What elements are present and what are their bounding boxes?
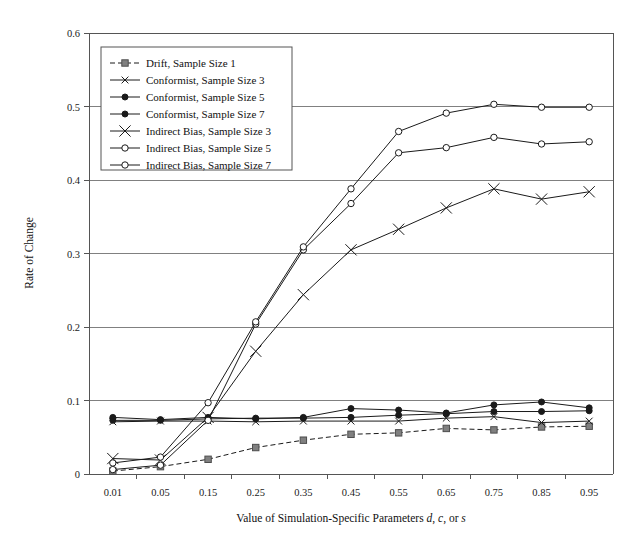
legend-label: Conformist, Sample Size 3 [146, 74, 265, 86]
data-point-marker [491, 134, 497, 140]
data-point-marker [157, 417, 163, 423]
data-point-marker [586, 405, 592, 411]
data-point-marker [491, 402, 497, 408]
data-point-marker [491, 409, 497, 415]
legend-label: Conformist, Sample Size 7 [146, 108, 265, 120]
x-tick-label: 0.45 [342, 487, 360, 498]
data-point-marker [157, 454, 163, 460]
data-point-marker [586, 104, 592, 110]
y-tick-label: 0.5 [67, 102, 80, 113]
data-point-marker [395, 128, 401, 134]
x-tick-label: 0.25 [247, 487, 265, 498]
x-axis-ticks [137, 474, 566, 479]
data-point-marker [253, 416, 259, 422]
data-point-marker [110, 414, 116, 420]
data-point-marker [205, 456, 211, 462]
x-axis-title-sep2: , or [443, 512, 461, 525]
data-point-marker [538, 104, 544, 110]
data-point-marker [300, 244, 306, 250]
data-point-marker [205, 400, 211, 406]
y-tick-label: 0 [75, 469, 80, 480]
data-point-marker [395, 430, 401, 436]
data-point-marker [110, 460, 116, 466]
y-tick-label: 0.6 [67, 28, 80, 39]
x-tick-label: 0.75 [485, 487, 503, 498]
data-point-marker [348, 414, 354, 420]
data-point-marker [205, 417, 211, 423]
y-axis-title: Rate of Change [23, 217, 36, 289]
legend-swatch-marker [122, 162, 128, 168]
x-tick-label: 0.55 [389, 487, 407, 498]
chart-figure: 00.10.20.30.40.50.6 0.010.050.150.250.35… [0, 0, 640, 546]
line-chart: 00.10.20.30.40.50.6 0.010.050.150.250.35… [0, 0, 640, 546]
data-point-marker [586, 139, 592, 145]
x-tick-label: 0.01 [104, 487, 122, 498]
x-tick-label: 0.05 [151, 487, 169, 498]
y-tick-label: 0.4 [67, 175, 81, 186]
data-point-marker [491, 101, 497, 107]
data-point-marker [538, 141, 544, 147]
data-point-marker [348, 200, 354, 206]
data-point-marker [539, 409, 545, 415]
data-point-marker [348, 431, 354, 437]
x-tick-label: 0.85 [532, 487, 550, 498]
data-point-marker [157, 462, 163, 468]
y-tick-label: 0.1 [67, 396, 80, 407]
data-point-marker [443, 144, 449, 150]
data-point-marker [443, 110, 449, 116]
data-point-marker [348, 406, 354, 412]
legend-swatch-marker [122, 94, 128, 100]
data-point-marker [300, 414, 306, 420]
data-point-marker [443, 410, 449, 416]
legend-swatch-marker [122, 145, 128, 151]
data-point-marker [396, 407, 402, 413]
data-point-marker [348, 186, 354, 192]
data-point-marker [491, 427, 497, 433]
x-axis-title-lead: Value of Simulation-Specific Parameters [236, 512, 426, 525]
x-tick-label: 0.65 [437, 487, 455, 498]
x-tick-label: 0.95 [580, 487, 598, 498]
legend-label: Drift, Sample Size 1 [146, 57, 236, 69]
data-point-marker [253, 319, 259, 325]
x-tick-label: 0.35 [294, 487, 312, 498]
data-point-marker [300, 437, 306, 443]
legend-label: Indirect Bias, Sample Size 3 [146, 125, 271, 137]
legend-swatch-marker [122, 60, 128, 66]
y-tick-label: 0.3 [67, 249, 80, 260]
data-point-marker [539, 399, 545, 405]
x-axis-title: Value of Simulation-Specific Parameters … [236, 512, 466, 525]
legend-label: Conformist, Sample Size 5 [146, 91, 265, 103]
x-tick-label: 0.15 [199, 487, 217, 498]
legend-label: Indirect Bias, Sample Size 7 [146, 159, 271, 171]
data-point-marker [443, 425, 449, 431]
y-axis-tick-labels: 00.10.20.30.40.50.6 [67, 28, 81, 480]
x-axis-title-param-s: s [461, 512, 466, 524]
data-point-marker [110, 466, 116, 472]
legend-swatch-marker [122, 111, 128, 117]
y-tick-label: 0.2 [67, 322, 80, 333]
legend-label: Indirect Bias, Sample Size 5 [146, 142, 271, 154]
data-point-marker [253, 444, 259, 450]
data-point-marker [395, 150, 401, 156]
chart-legend: Drift, Sample Size 1Conformist, Sample S… [101, 47, 292, 171]
x-axis-tick-labels: 0.010.050.150.250.350.450.550.650.750.85… [104, 487, 599, 498]
